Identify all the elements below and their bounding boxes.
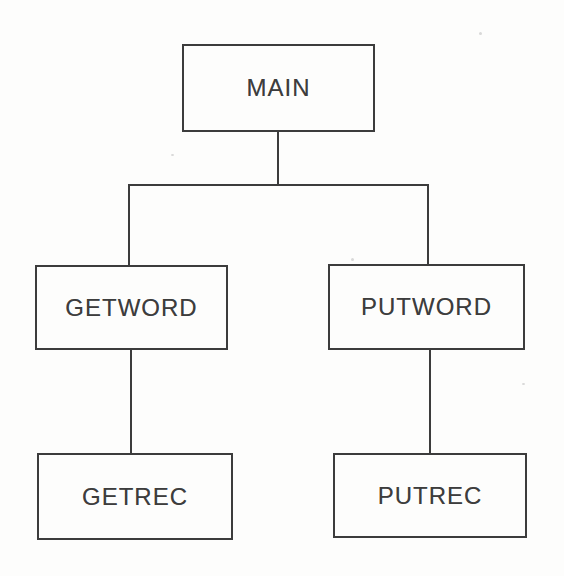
scan-speck (351, 258, 354, 261)
node-main-label: MAIN (247, 74, 311, 102)
node-putrec: PUTREC (333, 453, 527, 538)
node-getrec-label: GETREC (82, 483, 188, 511)
node-getword: GETWORD (35, 265, 228, 350)
connector-crossbar (128, 184, 429, 186)
scan-speck (479, 32, 482, 35)
node-putword: PUTWORD (328, 264, 525, 350)
structure-chart-diagram: MAIN GETWORD PUTWORD GETREC PUTREC (0, 0, 564, 576)
connector-getword-to-getrec (130, 348, 132, 455)
connector-main-stem (277, 130, 279, 186)
node-main: MAIN (182, 44, 375, 132)
node-getrec: GETREC (37, 453, 233, 540)
scan-speck (522, 383, 525, 385)
connector-main-to-getword (128, 184, 130, 267)
connector-putword-to-putrec (429, 347, 431, 455)
node-getword-label: GETWORD (65, 294, 197, 322)
node-putword-label: PUTWORD (361, 293, 492, 321)
scan-speck (171, 154, 174, 156)
connector-main-to-putword (427, 184, 429, 267)
node-putrec-label: PUTREC (378, 482, 483, 510)
